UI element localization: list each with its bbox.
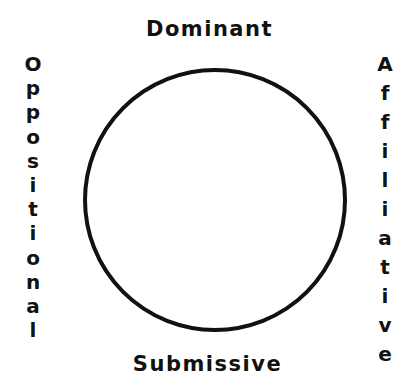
letter: p <box>26 100 40 124</box>
letter: O <box>24 52 41 76</box>
letter: e <box>378 340 392 369</box>
letter: i <box>30 221 37 245</box>
letter: p <box>26 76 40 100</box>
letter: f <box>381 108 390 137</box>
letter: s <box>27 149 39 173</box>
letter: o <box>26 246 40 270</box>
label-oppositional: O p p o s i t i o n a l <box>21 52 45 342</box>
letter: v <box>378 311 391 340</box>
label-affiliative: A f f i l i a t i v e <box>373 50 397 369</box>
letter: o <box>26 125 40 149</box>
letter: n <box>26 270 40 294</box>
letter: i <box>382 137 389 166</box>
letter: t <box>28 197 38 221</box>
label-dominant: Dominant <box>2 17 415 41</box>
circumplex-circle <box>0 0 415 391</box>
letter: l <box>30 318 37 342</box>
label-submissive: Submissive <box>0 352 415 376</box>
letter: a <box>26 294 40 318</box>
letter: a <box>378 224 392 253</box>
letter: A <box>377 50 392 79</box>
letter: f <box>381 79 390 108</box>
letter: i <box>382 282 389 311</box>
letter: i <box>30 173 37 197</box>
letter: i <box>382 195 389 224</box>
letter: t <box>380 253 390 282</box>
letter: l <box>382 166 389 195</box>
